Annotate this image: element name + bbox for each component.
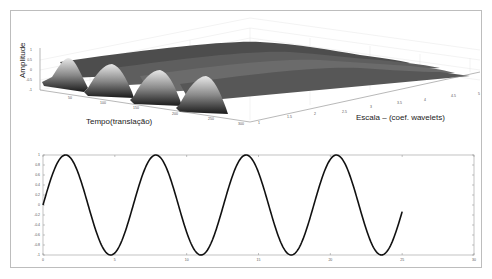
y-tick-label: 0 <box>38 203 40 207</box>
svg-text:3.5: 3.5 <box>397 101 402 105</box>
figure-canvas: 1 0.5 0 -0.5 -1 Amplitude 50 100 150 200… <box>0 0 492 279</box>
svg-text:3: 3 <box>370 105 372 109</box>
y-tick-label: -0.2 <box>34 213 40 217</box>
svg-text:100: 100 <box>100 101 106 105</box>
svg-text:200: 200 <box>172 112 178 116</box>
svg-text:300: 300 <box>238 122 244 126</box>
svg-text:1: 1 <box>30 48 32 52</box>
svg-text:1.5: 1.5 <box>287 115 292 119</box>
plot-area <box>43 155 474 255</box>
svg-text:2: 2 <box>314 112 316 116</box>
svg-text:1: 1 <box>258 121 260 125</box>
svg-text:50: 50 <box>68 96 72 100</box>
svg-text:5: 5 <box>478 92 480 96</box>
svg-text:0: 0 <box>30 68 32 72</box>
y-tick-label: 1 <box>38 153 40 157</box>
y-tick-label: 0.2 <box>35 193 40 197</box>
y-tick-label: -0.8 <box>34 243 40 247</box>
x-tick-label: 25 <box>400 258 404 262</box>
x-tick-label: 30 <box>472 258 476 262</box>
line-plot: 10.80.60.40.20-0.2-0.4-0.6-0.8-1 0510152… <box>34 153 476 262</box>
svg-text:2.5: 2.5 <box>342 110 347 114</box>
svg-text:150: 150 <box>133 106 139 110</box>
svg-text:4: 4 <box>424 98 426 102</box>
y-tick-label: 0.6 <box>35 173 40 177</box>
x-tick-label: 20 <box>328 258 332 262</box>
x-tick-label: 5 <box>114 258 116 262</box>
y-axis-label-3d: Escala – (coef. wavelets) <box>356 113 445 122</box>
svg-text:-1: -1 <box>29 88 32 92</box>
z-axis-label: Amplitude <box>18 42 27 78</box>
x-tick-label: 15 <box>257 258 261 262</box>
y-tick-label: 0.8 <box>35 163 40 167</box>
surface-plot: 1 0.5 0 -0.5 -1 Amplitude 50 100 150 200… <box>18 18 480 126</box>
y-tick-label: 0.4 <box>35 183 40 187</box>
x-tick-label: 10 <box>185 258 189 262</box>
y-tick-label: -0.4 <box>34 223 40 227</box>
svg-text:0.5: 0.5 <box>27 58 32 62</box>
x-tick-label: 0 <box>42 258 44 262</box>
y-tick-label: -0.6 <box>34 233 40 237</box>
x-axis-label-3d: Tempo(translação) <box>86 117 153 126</box>
y-tick-label: -1 <box>37 253 40 257</box>
svg-text:4.5: 4.5 <box>451 94 456 98</box>
svg-text:250: 250 <box>208 117 214 121</box>
